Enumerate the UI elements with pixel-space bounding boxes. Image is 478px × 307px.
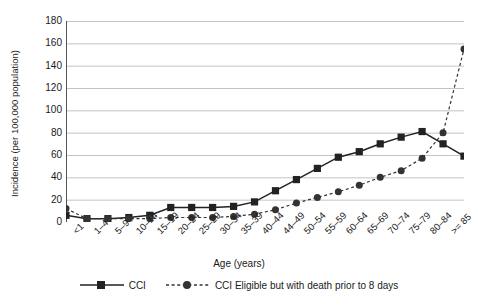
x-tick-label: 70–74 xyxy=(386,210,412,236)
legend-label-cci-eligible: CCI Eligible but with death prior to 8 d… xyxy=(215,280,398,291)
incidence-by-age-chart: Incidence (per 100,000 population) 18016… xyxy=(0,0,478,307)
x-tick-label: 55–59 xyxy=(323,210,349,236)
legend-swatch-dashed-circle-icon xyxy=(166,279,210,291)
x-tick-label: 44–49 xyxy=(281,210,307,236)
x-tick-label: 25–29 xyxy=(197,210,223,236)
x-tick-label: 10–14 xyxy=(134,210,160,236)
x-tick-label: 35–39 xyxy=(239,210,265,236)
x-tick-label: 1–4 xyxy=(92,218,110,236)
x-tick-label: <1 xyxy=(71,221,86,236)
legend-item-cci: CCI xyxy=(80,279,146,291)
x-tick-label: 65–69 xyxy=(365,210,391,236)
x-tick-label: 20–24 xyxy=(176,210,202,236)
x-tick-label: 60–64 xyxy=(344,210,370,236)
x-tick-label: 80–84 xyxy=(428,210,454,236)
x-tick-label: 40–44 xyxy=(260,210,286,236)
x-tick-label: 30–34 xyxy=(218,210,244,236)
x-tick-label: 5–9 xyxy=(113,218,131,236)
legend-item-cci-eligible-death-prior: CCI Eligible but with death prior to 8 d… xyxy=(166,279,398,291)
x-axis-title: Age (years) xyxy=(0,258,478,269)
x-tick-label: 50–54 xyxy=(302,210,328,236)
chart-legend: CCI CCI Eligible but with death prior to… xyxy=(0,279,478,291)
legend-label-cci: CCI xyxy=(129,280,146,291)
x-tick-label: 15–19 xyxy=(155,210,181,236)
x-tick-label: 75–79 xyxy=(407,210,433,236)
legend-swatch-solid-square-icon xyxy=(80,279,124,291)
